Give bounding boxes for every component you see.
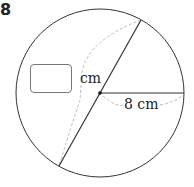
radius-dashed-arc-left bbox=[103, 96, 123, 106]
question-number: 8 bbox=[0, 0, 11, 19]
radius-dashed-arc-right bbox=[160, 94, 184, 105]
radius-label: 8 cm bbox=[123, 96, 159, 112]
diagram: 8 cm 8 cm bbox=[0, 0, 194, 187]
center-point bbox=[98, 91, 102, 95]
diameter-unit-label: cm bbox=[80, 70, 101, 86]
circle-diagram bbox=[0, 0, 194, 187]
answer-box[interactable] bbox=[30, 64, 72, 93]
